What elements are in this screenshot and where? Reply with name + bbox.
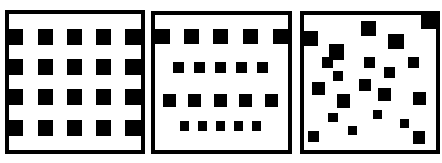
black-square [216,121,225,131]
black-square [413,131,425,144]
black-square [96,120,111,136]
black-square [243,29,258,44]
black-square [236,62,247,73]
black-square [361,21,376,36]
black-square [322,57,333,68]
black-square [163,94,176,107]
black-square [194,62,205,73]
black-square [173,62,184,73]
black-square [125,120,141,136]
black-square [67,120,82,136]
black-square [67,59,82,75]
black-square [38,59,53,75]
black-square [239,94,252,107]
black-square [7,29,23,45]
black-square [388,34,404,49]
black-square [265,94,278,107]
black-square [155,29,170,44]
black-square [308,131,319,142]
black-square [408,57,419,68]
black-square [184,29,199,44]
black-square [328,113,338,122]
black-square [188,94,201,107]
black-square [373,110,382,119]
black-square [7,89,23,105]
black-square [252,121,261,131]
black-square [364,57,375,68]
black-square [180,121,189,131]
black-square [304,31,318,46]
black-square [400,119,409,128]
black-square [38,29,53,45]
black-square [359,79,371,91]
black-square [7,120,23,136]
black-square [214,94,227,107]
black-square [213,29,228,44]
black-square [38,120,53,136]
black-square [96,59,111,75]
black-square [67,29,82,45]
black-square [198,121,207,131]
black-square [125,59,141,75]
black-square [312,82,325,95]
black-square [125,29,141,45]
black-square [348,126,357,135]
black-square [257,62,268,73]
black-square [96,89,111,105]
black-square [384,67,395,78]
black-square [125,89,141,105]
black-square [67,89,82,105]
black-square [234,121,243,131]
black-square [38,89,53,105]
black-square [413,92,426,105]
black-square [421,14,437,29]
black-square [7,59,23,75]
black-square [337,94,350,108]
black-square [215,62,226,73]
black-square [96,29,111,45]
black-square [378,88,391,101]
black-square [333,71,343,81]
black-square [273,29,289,44]
